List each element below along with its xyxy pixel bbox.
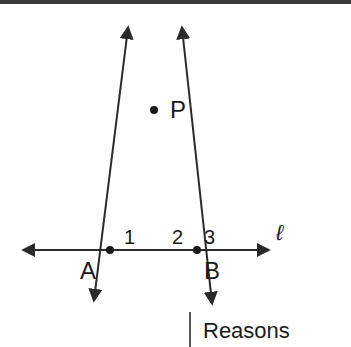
point-a-dot [106, 246, 114, 254]
geometry-diagram: P A B 1 2 3 ℓ [0, 0, 351, 347]
point-b-label: B [204, 257, 220, 284]
point-a-label: A [80, 257, 96, 284]
line-l-label: ℓ [275, 220, 284, 245]
angle-3-label: 3 [204, 226, 215, 248]
line-ap [94, 28, 128, 300]
point-p-label: P [170, 96, 186, 123]
reasons-column-header: Reasons [203, 318, 290, 344]
point-b-dot [193, 246, 201, 254]
point-p-dot [150, 106, 158, 114]
angle-1-label: 1 [124, 226, 135, 248]
table-column-divider [189, 312, 191, 347]
angle-2-label: 2 [172, 226, 183, 248]
